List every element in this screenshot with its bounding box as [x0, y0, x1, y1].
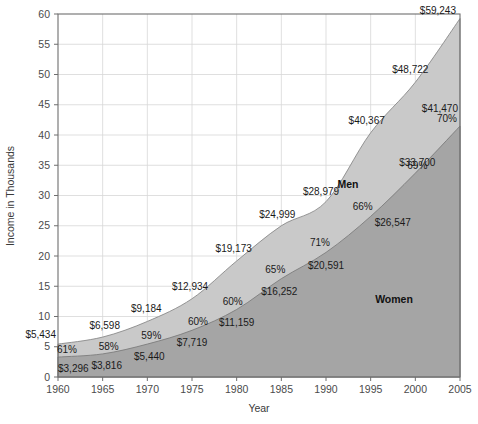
ratio-percent-label: 59%: [141, 330, 161, 341]
men-value-label: $40,367: [349, 115, 386, 126]
x-tick-label: 1970: [136, 383, 160, 395]
men-value-label: $5,434: [25, 329, 56, 340]
women-value-label: $16,252: [261, 286, 298, 297]
men-value-label: $19,173: [216, 243, 253, 254]
x-tick-label: 1965: [91, 383, 115, 395]
chart-canvas: 051015202530354045505560 196019651970197…: [0, 0, 478, 424]
y-tick-label: 35: [38, 159, 50, 171]
x-tick-label: 2000: [404, 383, 428, 395]
y-tick-label: 5: [44, 340, 50, 352]
ratio-percent-label: 66%: [353, 201, 373, 212]
men-value-label: $9,184: [131, 303, 162, 314]
ratio-percent-label: 58%: [99, 341, 119, 352]
x-tick-label: 1980: [225, 383, 249, 395]
men-value-label: $48,722: [392, 64, 429, 75]
y-tick-label: 20: [38, 250, 50, 262]
women-value-label: $11,159: [219, 317, 255, 328]
men-value-label: $24,999: [259, 209, 296, 220]
women-value-label: $3,816: [91, 360, 122, 371]
men-value-label: $6,598: [89, 320, 120, 331]
series-label-men: Men: [338, 178, 359, 190]
ratio-percent-label: 60%: [188, 316, 208, 327]
y-tick-label: 55: [38, 38, 50, 50]
y-tick-label: 10: [38, 310, 50, 322]
men-value-label: $59,243: [420, 5, 457, 16]
x-tick-label: 1995: [359, 383, 383, 395]
x-axis-title: Year: [248, 402, 270, 414]
x-axis-ticks: 1960196519701975198019851990199520002005: [46, 377, 472, 395]
y-tick-label: 15: [38, 280, 50, 292]
ratio-percent-label: 70%: [437, 113, 457, 124]
y-tick-label: 45: [38, 98, 50, 110]
women-value-label: $3,296: [58, 363, 89, 374]
y-axis-title: Income in Thousands: [4, 146, 16, 246]
men-value-label: $28,979: [303, 186, 340, 197]
men-value-label: $12,934: [172, 281, 209, 292]
y-tick-label: 30: [38, 189, 50, 201]
ratio-percent-label: 71%: [310, 237, 330, 248]
x-tick-label: 1960: [46, 383, 70, 395]
women-value-label: $5,440: [134, 351, 165, 362]
series-label-women: Women: [375, 293, 413, 305]
ratio-percent-label: 61%: [57, 344, 77, 355]
women-value-label: $7,719: [177, 337, 208, 348]
ratio-percent-label: 65%: [265, 264, 285, 275]
women-value-label: $20,591: [308, 260, 345, 271]
y-tick-label: 0: [44, 371, 50, 383]
y-tick-label: 40: [38, 129, 50, 141]
x-tick-label: 1990: [314, 383, 338, 395]
y-tick-label: 50: [38, 68, 50, 80]
x-tick-label: 1975: [180, 383, 204, 395]
income-by-gender-area-chart: 051015202530354045505560 196019651970197…: [0, 0, 478, 424]
ratio-percent-label: 60%: [223, 296, 243, 307]
x-tick-label: 2005: [448, 383, 472, 395]
y-axis-ticks: 051015202530354045505560: [38, 8, 58, 383]
ratio-percent-label: 69%: [407, 160, 427, 171]
y-tick-label: 25: [38, 219, 50, 231]
y-tick-label: 60: [38, 8, 50, 20]
x-tick-label: 1985: [270, 383, 294, 395]
women-value-label: $26,547: [375, 217, 412, 228]
